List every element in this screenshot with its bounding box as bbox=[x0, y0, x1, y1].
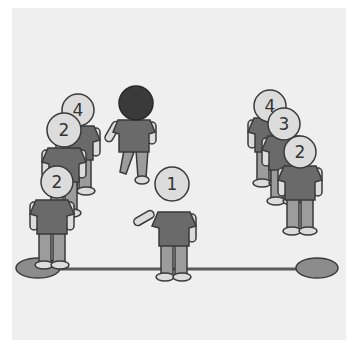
svg-text:2: 2 bbox=[52, 172, 63, 192]
left-player-2: 2 bbox=[30, 166, 74, 269]
svg-text:2: 2 bbox=[59, 120, 70, 140]
svg-text:1: 1 bbox=[167, 174, 178, 194]
svg-text:2: 2 bbox=[295, 142, 306, 162]
runner bbox=[104, 86, 156, 184]
svg-text:3: 3 bbox=[279, 114, 290, 134]
runner-head bbox=[119, 86, 153, 120]
right-player-2: 2 bbox=[278, 136, 322, 235]
right-mat bbox=[296, 258, 338, 278]
relay-race-illustration: 4 3 2 4 2 2 bbox=[0, 0, 358, 349]
